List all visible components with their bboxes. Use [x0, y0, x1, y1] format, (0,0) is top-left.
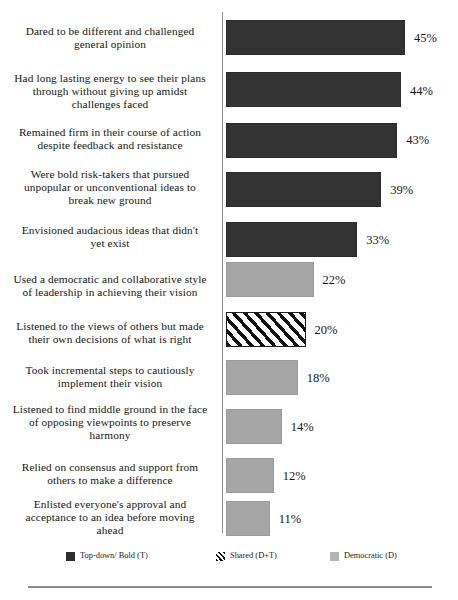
bar-democratic: [226, 501, 270, 536]
bar-category-label-line: Enlisted everyone's approval and: [4, 498, 216, 511]
legend-label: Shared (D+T): [230, 551, 277, 561]
bar-row: Enlisted everyone's approval andacceptan…: [0, 0, 458, 536]
bar-category-label: Enlisted everyone's approval andacceptan…: [4, 498, 216, 538]
legend-swatch-icon: [66, 552, 75, 561]
legend-label: Top-down/ Bold (T): [80, 551, 148, 561]
bar-value-label: 11%: [279, 512, 301, 526]
bar-chart: Dared to be different and challengedgene…: [0, 0, 458, 600]
bar-category-label-line: ahead: [4, 524, 216, 537]
bar-category-label-line: acceptance to an idea before moving: [4, 511, 216, 524]
legend-item-shared: Shared (D+T): [216, 551, 277, 561]
legend-swatch-icon: [216, 552, 225, 561]
footer-divider: [28, 586, 432, 588]
chart-legend: Top-down/ Bold (T)Shared (D+T)Democratic…: [0, 548, 458, 568]
plot-area: Dared to be different and challengedgene…: [0, 0, 458, 536]
legend-item-topdown: Top-down/ Bold (T): [66, 551, 148, 561]
legend-swatch-icon: [330, 552, 339, 561]
legend-item-democratic: Democratic (D): [330, 551, 397, 561]
legend-label: Democratic (D): [344, 551, 397, 561]
